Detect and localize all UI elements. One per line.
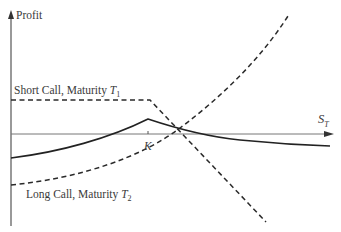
short-call-label: Short Call, Maturity T1 — [14, 84, 120, 99]
y-axis-arrow-icon — [8, 10, 14, 19]
short-call-curve — [11, 100, 266, 222]
y-axis-label: Profit — [16, 9, 42, 21]
calendar-spread-diagram: Profit ST K Short Call, Maturity T1 Long… — [0, 0, 341, 232]
strike-label: K — [144, 140, 152, 152]
calendar-spread-profit-curve — [11, 119, 330, 158]
x-axis-arrow-icon — [324, 131, 334, 137]
x-axis-label: ST — [318, 112, 329, 129]
long-call-label: Long Call, Maturity T2 — [26, 188, 132, 203]
